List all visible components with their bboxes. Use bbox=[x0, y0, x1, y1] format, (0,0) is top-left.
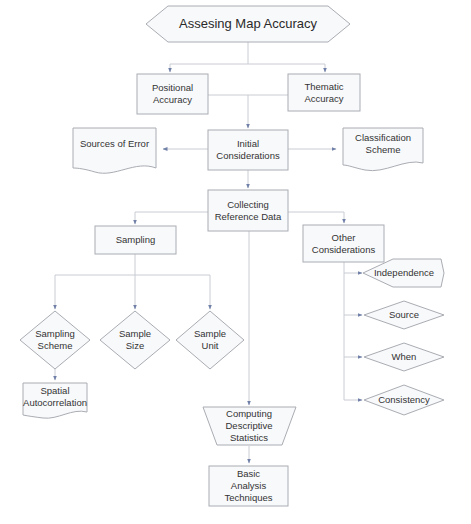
node-when-label: When bbox=[364, 343, 444, 371]
sample-size-line1: Sample bbox=[119, 328, 151, 340]
edge-title-thematic bbox=[248, 64, 325, 72]
initial-considerations-line1: Initial bbox=[237, 138, 259, 150]
node-basic-analysis-techniques-label: Basic Analysis Techniques bbox=[209, 466, 288, 506]
node-consistency-label: Consistency bbox=[364, 385, 444, 415]
node-spatial-autocorrelation-label: Spatial Autocorrelation bbox=[21, 383, 89, 411]
edge-collecting-sampling bbox=[135, 212, 208, 224]
when-text: When bbox=[392, 351, 417, 363]
sample-size-line2: Size bbox=[126, 340, 144, 352]
computing-line2: Descriptive bbox=[226, 420, 273, 432]
sampling-scheme-line2: Scheme bbox=[38, 340, 73, 352]
basic-analysis-line3: Techniques bbox=[224, 492, 272, 504]
node-title-label: Assesing Map Accuracy bbox=[160, 6, 336, 42]
basic-analysis-line2: Analysis bbox=[231, 480, 266, 492]
classification-scheme-line2: Scheme bbox=[366, 144, 401, 156]
node-sources-of-error-label: Sources of Error bbox=[73, 128, 156, 160]
computing-line1: Computing bbox=[226, 408, 272, 420]
initial-considerations-line2: Considerations bbox=[216, 150, 279, 162]
sample-unit-line2: Unit bbox=[202, 340, 219, 352]
source-text: Source bbox=[389, 309, 419, 321]
node-sampling-label: Sampling bbox=[95, 226, 176, 254]
node-sample-size-label: Sample Size bbox=[100, 311, 170, 369]
node-positional-accuracy-label: Positional Accuracy bbox=[137, 74, 208, 114]
sampling-text: Sampling bbox=[116, 234, 156, 246]
computing-line3: Statistics bbox=[230, 432, 268, 444]
node-sampling-scheme-label: Sampling Scheme bbox=[20, 311, 90, 369]
node-computing-descriptive-statistics-label: Computing Descriptive Statistics bbox=[209, 407, 289, 445]
thematic-accuracy-line2: Accuracy bbox=[304, 93, 343, 105]
other-considerations-line2: Considerations bbox=[312, 244, 375, 256]
other-considerations-line1: Other bbox=[332, 232, 356, 244]
classification-scheme-line1: Classification bbox=[355, 132, 411, 144]
title-text: Assesing Map Accuracy bbox=[179, 18, 317, 30]
collecting-reference-data-line1: Collecting bbox=[227, 199, 269, 211]
node-collecting-reference-data-label: Collecting Reference Data bbox=[208, 190, 288, 231]
sample-unit-line1: Sample bbox=[194, 328, 226, 340]
edge-sampling-unit bbox=[135, 275, 210, 309]
node-initial-considerations-label: Initial Considerations bbox=[208, 130, 288, 170]
node-independence-label: Independence bbox=[364, 259, 444, 287]
node-sample-unit-label: Sample Unit bbox=[176, 311, 244, 369]
node-source-label: Source bbox=[364, 301, 444, 329]
spatial-autocorrelation-line1: Spatial bbox=[40, 385, 69, 397]
spatial-autocorrelation-line2: Autocorrelation bbox=[23, 397, 87, 409]
node-other-considerations-label: Other Considerations bbox=[303, 225, 384, 262]
node-thematic-accuracy-label: Thematic Accuracy bbox=[288, 74, 360, 111]
edge-collecting-other bbox=[288, 212, 344, 223]
basic-analysis-line1: Basic bbox=[237, 468, 260, 480]
positional-accuracy-line2: Accuracy bbox=[153, 94, 192, 106]
edge-sampling-children bbox=[55, 254, 135, 309]
sources-of-error-text: Sources of Error bbox=[80, 138, 149, 150]
edge-title-positional bbox=[170, 42, 248, 72]
consistency-text: Consistency bbox=[378, 394, 430, 406]
independence-text: Independence bbox=[374, 267, 434, 279]
positional-accuracy-line1: Positional bbox=[152, 82, 193, 94]
sampling-scheme-line1: Sampling bbox=[35, 328, 75, 340]
node-classification-scheme-label: Classification Scheme bbox=[343, 128, 423, 160]
collecting-reference-data-line2: Reference Data bbox=[215, 211, 282, 223]
thematic-accuracy-line1: Thematic bbox=[304, 81, 343, 93]
